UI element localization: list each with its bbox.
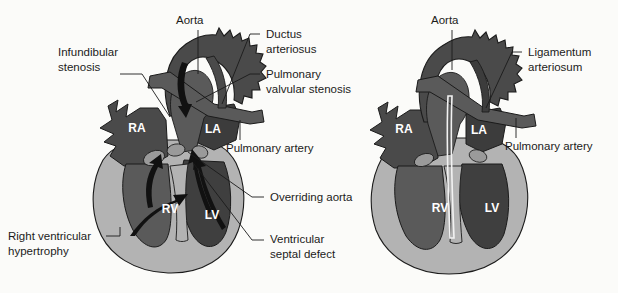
chamber-label-la-right: LA <box>471 123 487 137</box>
label-line: Right ventricular <box>8 230 91 242</box>
chamber-label-lv-right: LV <box>485 201 499 215</box>
label-right-ventricular-hypertrophy: Right ventricular hypertrophy <box>8 230 94 257</box>
label-line: Ligamentum <box>528 46 591 58</box>
label-aorta-right: Aorta <box>431 14 459 26</box>
label-line: valvular stenosis <box>266 83 351 95</box>
label-line: Ventricular <box>270 233 325 245</box>
label-overriding-aorta: Overriding aorta <box>270 191 353 203</box>
chamber-label-rv-left: RV <box>162 202 178 216</box>
label-ligamentum-arteriosum: Ligamentum arteriosum <box>528 46 595 73</box>
label-line: Ductus <box>266 28 302 40</box>
label-ventricular-septal-defect: Ventricular septal defect <box>270 233 336 260</box>
label-aorta-left: Aorta <box>176 14 204 26</box>
chamber-label-ra-right: RA <box>395 122 413 136</box>
label-line: Pulmonary <box>266 68 321 80</box>
label-line: stenosis <box>58 61 100 73</box>
label-ductus-arteriosus: Ductus arteriosus <box>266 28 317 55</box>
right-heart-illustration <box>370 30 536 274</box>
chamber-label-lv-left: LV <box>205 208 219 222</box>
figure-canvas: Aorta Infundibular stenosis Ductus arter… <box>0 0 618 293</box>
label-line: arteriosum <box>528 61 582 73</box>
label-line: septal defect <box>270 248 336 260</box>
label-line: arteriosus <box>266 43 317 55</box>
label-pulmonary-valvular-stenosis: Pulmonary valvular stenosis <box>266 68 351 95</box>
label-pulmonary-artery-left: Pulmonary artery <box>226 142 314 154</box>
label-infundibular-stenosis: Infundibular stenosis <box>58 46 121 73</box>
label-line: Infundibular <box>58 46 118 58</box>
chamber-label-la-left: LA <box>205 122 221 136</box>
label-pulmonary-artery-right: Pulmonary artery <box>505 140 593 152</box>
chamber-label-ra-left: RA <box>128 121 146 135</box>
label-line: hypertrophy <box>8 245 69 257</box>
heart-diagram-svg: Aorta Infundibular stenosis Ductus arter… <box>0 0 618 293</box>
chamber-label-rv-right: RV <box>432 201 448 215</box>
